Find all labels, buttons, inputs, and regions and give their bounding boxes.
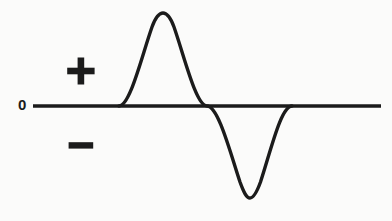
minus-sign-icon [62,128,100,164]
waveform-plot [0,0,392,221]
plus-sign-glyph [62,52,100,90]
plus-sign-icon [62,52,100,90]
sine-wave-figure: 0 [0,0,392,221]
minus-sign-glyph [62,128,100,164]
zero-axis-label: 0 [14,95,30,115]
